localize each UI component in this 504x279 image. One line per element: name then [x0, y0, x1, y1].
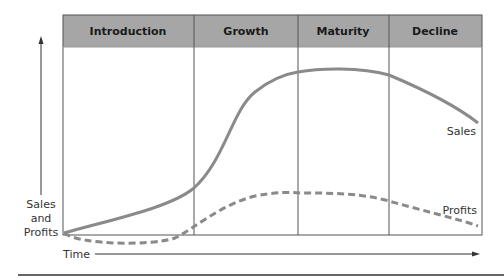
sales-label: Sales [447, 125, 477, 138]
y-label-line-3: Profits [24, 226, 59, 239]
stage-decline: Decline [412, 25, 458, 38]
chart-frame [63, 15, 482, 235]
stage-growth: Growth [223, 25, 268, 38]
product-life-cycle-diagram: Introduction Growth Maturity Decline Sal… [0, 0, 504, 279]
stage-introduction: Introduction [90, 25, 167, 38]
y-label-line-2: and [31, 212, 52, 225]
y-axis-arrow-icon [39, 36, 44, 44]
x-axis-arrow-icon [472, 252, 480, 257]
x-axis-label: Time [62, 248, 90, 261]
y-label-line-1: Sales [26, 198, 56, 211]
profits-label: Profits [443, 204, 478, 217]
stage-maturity: Maturity [316, 25, 369, 38]
